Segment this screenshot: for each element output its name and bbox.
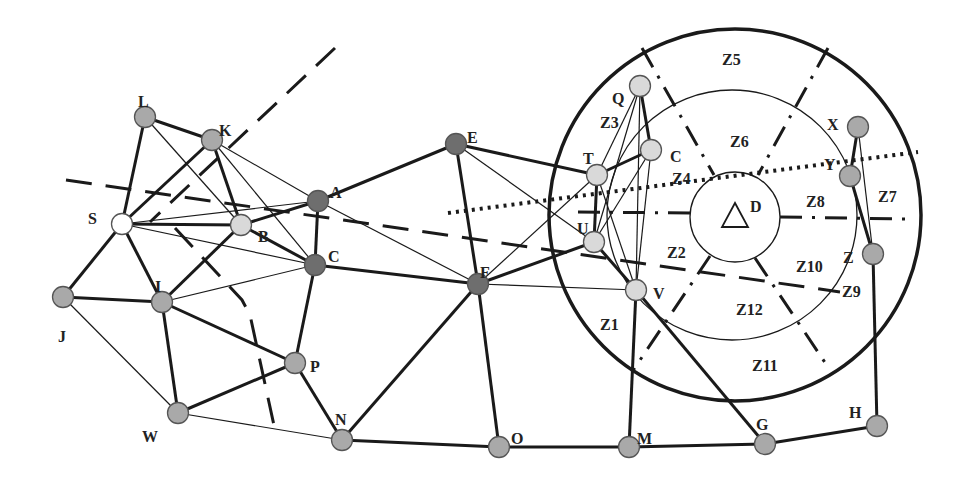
node-Y: [840, 166, 861, 187]
node-label-U: U: [577, 220, 589, 237]
outer-zone-circle: [549, 29, 921, 401]
node-label-S: S: [88, 210, 97, 227]
node-X: [848, 117, 869, 138]
node-G: [755, 434, 776, 455]
node-label-H: H: [849, 404, 862, 421]
node-T: [587, 165, 608, 186]
node-label-Y: Y: [824, 156, 836, 173]
zone-label-z11: Z11: [752, 357, 778, 374]
node-label-C2: C: [670, 148, 682, 165]
node-Q: [630, 76, 651, 97]
edge-C-F: [315, 265, 478, 284]
node-C2: [641, 140, 662, 161]
node-label-T: T: [583, 150, 594, 167]
edge-C-P: [295, 265, 315, 363]
node-O: [489, 437, 510, 458]
node-label-Z: Z: [843, 249, 854, 266]
edge-A-F: [318, 201, 478, 284]
edge-B-C: [241, 225, 315, 265]
node-S: [112, 214, 133, 235]
edge-S-J: [63, 224, 122, 297]
node-label-J: J: [58, 328, 66, 345]
node-Z: [863, 244, 884, 265]
zone-label-z9: Z9: [842, 283, 861, 300]
node-label-O: O: [511, 430, 523, 447]
zone-label-z8: Z8: [806, 193, 825, 210]
zone-label-z7: Z7: [878, 188, 897, 205]
diagram-canvas: LKSBACIJPWNEFOTUVQCXYZHGM Z1Z2Z3Z4Z5Z6Z7…: [0, 0, 954, 485]
node-H: [867, 416, 888, 437]
edge-F-V: [478, 284, 636, 290]
node-label-E: E: [467, 129, 478, 146]
edge-S-B: [122, 224, 241, 225]
edge-W-P: [178, 363, 295, 413]
node-label-W: W: [142, 428, 158, 445]
node-label-V: V: [653, 285, 665, 302]
edge-N-F: [342, 284, 478, 440]
edge-E-F: [456, 144, 478, 284]
edge-N-O: [342, 440, 499, 447]
node-label-M: M: [637, 430, 652, 447]
edge-L-S: [122, 117, 145, 224]
node-J: [53, 287, 74, 308]
edge-K-A: [212, 140, 318, 201]
node-C: [305, 255, 326, 276]
node-V: [626, 280, 647, 301]
zone-label-z1: Z1: [600, 316, 619, 333]
node-A: [308, 191, 329, 212]
base-station-triangle-icon: [722, 203, 748, 227]
zone-label-z10: Z10: [796, 258, 823, 275]
zone-label-z5: Z5: [722, 51, 741, 68]
node-P: [285, 353, 306, 374]
dashed-cut-line: [175, 228, 275, 430]
node-label-P: P: [310, 358, 320, 375]
inner-zone-circle: [690, 172, 780, 262]
node-label-L: L: [138, 93, 149, 110]
edge-G-H: [765, 426, 877, 444]
node-label-I: I: [155, 278, 161, 295]
edge-B-I: [162, 225, 241, 302]
zone-label-z12: Z12: [736, 301, 763, 318]
node-label-C: C: [328, 248, 340, 265]
node-W: [168, 403, 189, 424]
edge-J-W: [63, 297, 178, 413]
zone-label-z6: Z6: [730, 133, 749, 150]
network-diagram: LKSBACIJPWNEFOTUVQCXYZHGM Z1Z2Z3Z4Z5Z6Z7…: [0, 0, 954, 485]
dashed-boundary-diagonal: [150, 48, 335, 222]
node-label-Q: Q: [612, 90, 624, 107]
node-label-A: A: [330, 184, 342, 201]
node-label-F: F: [480, 264, 490, 281]
node-N: [332, 430, 353, 451]
zone-label-z2: Z2: [667, 244, 686, 261]
node-label-X: X: [827, 116, 839, 133]
edge-J-I: [63, 297, 162, 302]
edge-F-U: [478, 242, 594, 284]
edge-X-Z: [858, 127, 873, 254]
zone-label-z4: Z4: [672, 170, 691, 187]
node-B: [231, 215, 252, 236]
edge-I-W: [162, 302, 178, 413]
node-label-G: G: [756, 416, 769, 433]
base-station-label: D: [750, 198, 762, 215]
edge-F-O: [478, 284, 499, 447]
edge-Q-U: [594, 86, 640, 242]
node-E: [446, 134, 467, 155]
zone-label-z3: Z3: [600, 114, 619, 131]
zone-circles: [549, 29, 921, 401]
node-label-B: B: [258, 228, 269, 245]
edge-K-S: [122, 140, 212, 224]
node-label-K: K: [219, 122, 232, 139]
edge-I-P: [162, 302, 295, 363]
node-label-N: N: [335, 411, 347, 428]
edge-W-N: [178, 413, 342, 440]
edge-H-Z: [873, 254, 877, 426]
